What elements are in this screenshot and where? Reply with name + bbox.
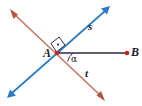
label-point-a: A bbox=[43, 47, 51, 59]
right-angle-mark bbox=[51, 37, 65, 52]
right-angle-dot bbox=[57, 43, 59, 45]
label-line-t: t bbox=[85, 68, 88, 79]
geometry-canvas bbox=[0, 0, 142, 106]
label-angle-alpha: α bbox=[71, 55, 77, 64]
label-point-b: B bbox=[131, 46, 139, 58]
geometry-figure: A B s t α bbox=[0, 0, 142, 106]
label-line-s: s bbox=[88, 21, 92, 32]
point-a-marker bbox=[55, 51, 60, 56]
point-b-marker bbox=[125, 51, 130, 56]
